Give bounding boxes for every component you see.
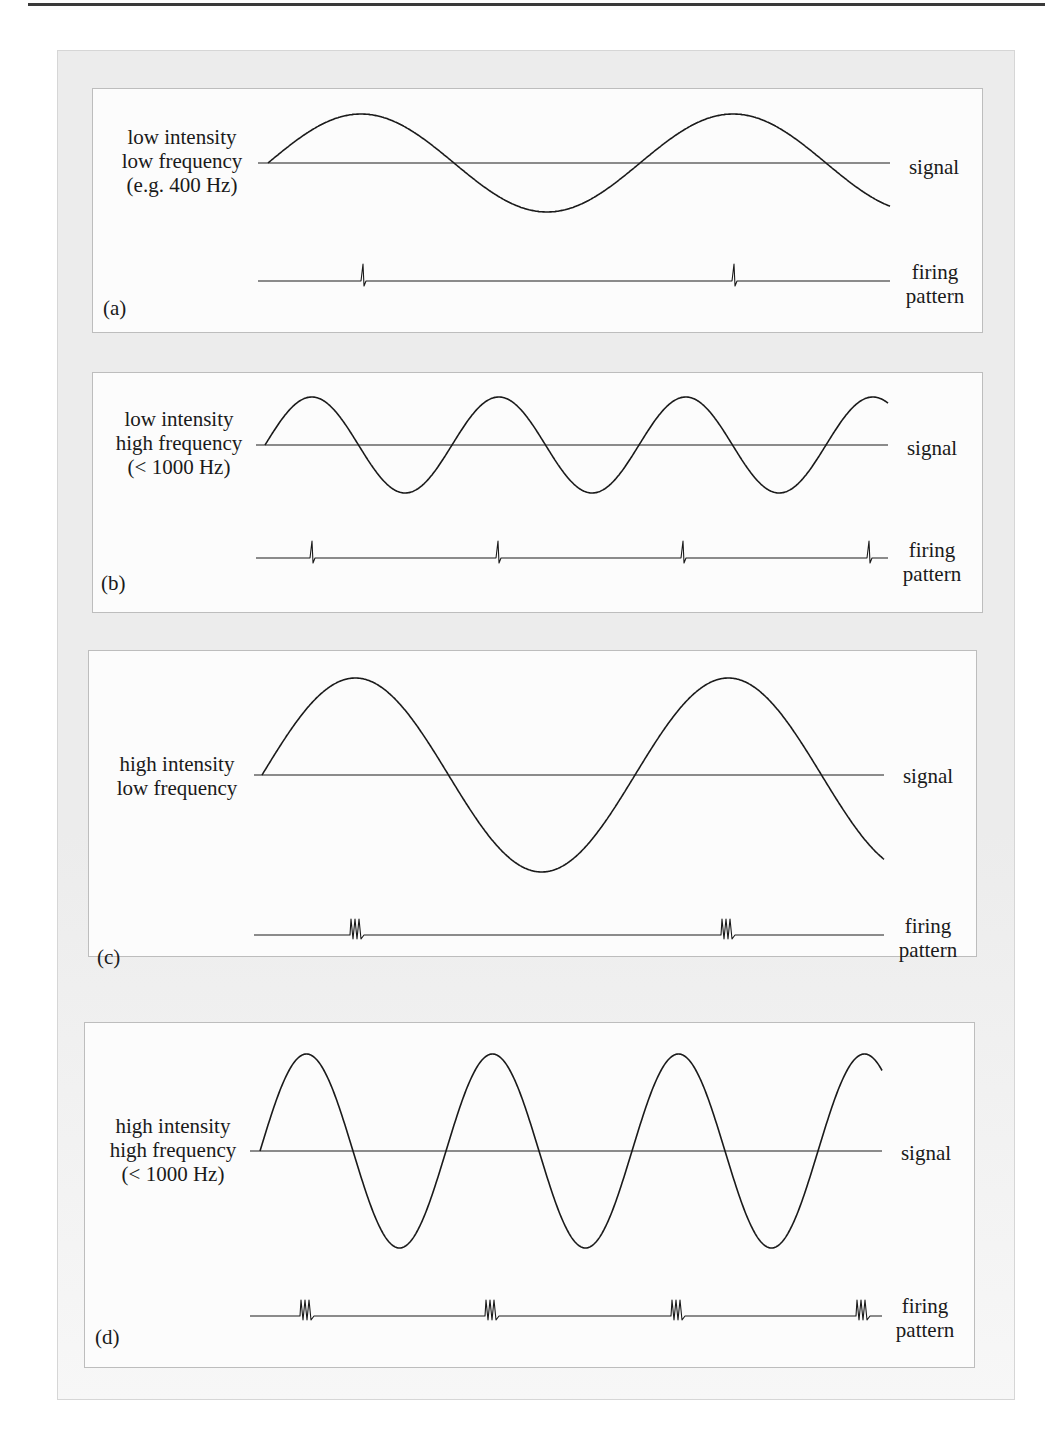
panel-d-tag: (d) (95, 1325, 120, 1349)
panel-c-tag: (c) (97, 945, 120, 969)
panel-c-signal-label: signal (892, 764, 964, 788)
panel-d-condition-label: high intensity high frequency (< 1000 Hz… (98, 1114, 248, 1186)
firing-label-line: firing (888, 914, 968, 938)
panel-d-intensity: high intensity (98, 1114, 248, 1138)
panel-a-intensity: low intensity (112, 125, 252, 149)
panel-d-signal-label: signal (890, 1141, 962, 1165)
panel-b-firing-label: firing pattern (892, 538, 972, 586)
pattern-label-line: pattern (895, 284, 975, 308)
panel-b-frequency: high frequency (104, 431, 254, 455)
panel-d-frequency-note: (< 1000 Hz) (98, 1162, 248, 1186)
panel-d-firing-pattern (250, 1300, 882, 1320)
panel-d-frequency: high frequency (98, 1138, 248, 1162)
panel-b-condition-label: low intensity high frequency (< 1000 Hz) (104, 407, 254, 479)
panel-d-firing-label: firing pattern (885, 1294, 965, 1342)
pattern-label-line: pattern (888, 938, 968, 962)
panel-b-intensity: low intensity (104, 407, 254, 431)
panel-b-tag: (b) (101, 571, 126, 595)
panel-a-signal-label: signal (898, 155, 970, 179)
panel-a-frequency-note: (e.g. 400 Hz) (112, 173, 252, 197)
panel-b-signal-label: signal (896, 436, 968, 460)
firing-label-line: firing (895, 260, 975, 284)
panel-b-firing-pattern (256, 541, 888, 563)
panel-c-intensity: high intensity (105, 752, 249, 776)
panel-a-frequency: low frequency (112, 149, 252, 173)
panel-c-frequency: low frequency (105, 776, 249, 800)
waveform-canvas (0, 0, 1045, 1446)
panel-c-firing-pattern (254, 919, 884, 939)
panel-a-firing-pattern (258, 264, 890, 286)
pattern-label-line: pattern (892, 562, 972, 586)
firing-label-line: firing (892, 538, 972, 562)
panel-a-condition-label: low intensity low frequency (e.g. 400 Hz… (112, 125, 252, 197)
firing-label-line: firing (885, 1294, 965, 1318)
panel-a-firing-label: firing pattern (895, 260, 975, 308)
panel-a-tag: (a) (103, 296, 126, 320)
pattern-label-line: pattern (885, 1318, 965, 1342)
panel-b-frequency-note: (< 1000 Hz) (104, 455, 254, 479)
panel-c-condition-label: high intensity low frequency (105, 752, 249, 800)
panel-c-firing-label: firing pattern (888, 914, 968, 962)
